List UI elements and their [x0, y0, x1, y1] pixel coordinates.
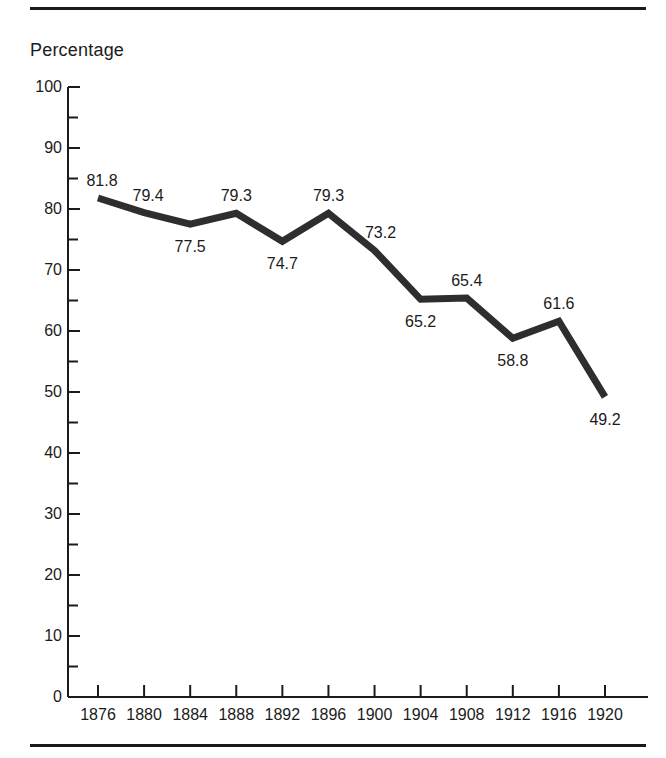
- data-point-label: 65.2: [405, 313, 436, 331]
- data-point-label: 77.5: [175, 238, 206, 256]
- x-tick-label: 1908: [449, 706, 485, 724]
- x-tick-label: 1892: [265, 706, 301, 724]
- data-point-label: 58.8: [497, 352, 528, 370]
- data-point-label: 79.3: [221, 187, 252, 205]
- y-tick-label: 70: [22, 261, 62, 279]
- x-tick-label: 1904: [403, 706, 439, 724]
- y-tick-label: 10: [22, 627, 62, 645]
- x-tick-label: 1900: [357, 706, 393, 724]
- data-series-line: [98, 198, 605, 397]
- data-point-label: 49.2: [589, 411, 620, 429]
- x-tick-label: 1884: [172, 706, 208, 724]
- x-tick-label: 1896: [311, 706, 347, 724]
- x-tick-label: 1888: [218, 706, 254, 724]
- data-point-label: 65.4: [451, 272, 482, 290]
- y-tick-label: 50: [22, 383, 62, 401]
- axis-lines: [68, 87, 648, 697]
- y-tick-label: 60: [22, 322, 62, 340]
- y-tick-label: 20: [22, 566, 62, 584]
- y-tick-label: 90: [22, 139, 62, 157]
- x-tick-label: 1876: [80, 706, 116, 724]
- plot-area: [0, 0, 666, 758]
- x-tick-label: 1880: [126, 706, 162, 724]
- data-point-label: 74.7: [267, 255, 298, 273]
- y-tick-label: 80: [22, 200, 62, 218]
- chart-figure: Percentage 0102030405060708090100 187618…: [0, 0, 666, 758]
- data-point-label: 79.4: [133, 187, 164, 205]
- x-tick-label: 1912: [495, 706, 531, 724]
- y-tick-label: 30: [22, 505, 62, 523]
- y-tick-label: 0: [22, 688, 62, 706]
- x-tick-marks: [98, 685, 605, 697]
- x-tick-label: 1920: [587, 706, 623, 724]
- data-point-label: 61.6: [543, 295, 574, 313]
- y-tick-label: 40: [22, 444, 62, 462]
- y-tick-label: 100: [22, 78, 62, 96]
- data-point-label: 81.8: [86, 172, 117, 190]
- data-point-label: 79.3: [313, 187, 344, 205]
- chart-svg: [0, 0, 666, 758]
- data-point-label: 73.2: [365, 224, 396, 242]
- y-tick-marks: [68, 87, 80, 667]
- x-tick-label: 1916: [541, 706, 577, 724]
